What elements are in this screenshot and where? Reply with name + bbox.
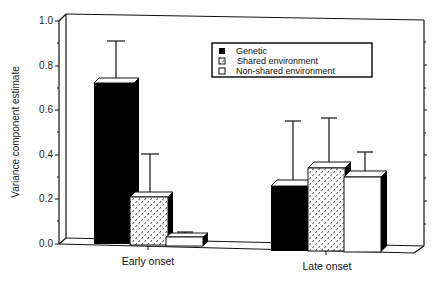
ytick-0.2: 0.2 <box>39 193 53 204</box>
legend-swatch-nonshared <box>219 68 225 74</box>
y-tick-labels: 1.0 0.8 0.6 0.4 0.2 0.0 <box>39 15 53 249</box>
ytick-0.0: 0.0 <box>39 238 53 249</box>
bar-chart: Variance component estimate <box>0 0 439 281</box>
legend-label-shared: Shared environment <box>237 56 319 66</box>
legend: Genetic Shared environment Non-shared en… <box>212 43 372 77</box>
legend-label-genetic: Genetic <box>236 46 268 56</box>
x-category-early-onset: Early onset <box>122 255 175 267</box>
ytick-0.4: 0.4 <box>39 149 53 160</box>
ytick-0.6: 0.6 <box>39 104 53 115</box>
legend-swatch-shared <box>219 58 225 64</box>
y-axis-label: Variance component estimate <box>10 66 21 198</box>
ytick-0.8: 0.8 <box>39 60 53 71</box>
ytick-1.0: 1.0 <box>39 15 53 26</box>
bar-early-nonshared <box>166 232 208 246</box>
legend-swatch-genetic <box>219 48 225 54</box>
legend-label-nonshared: Non-shared environment <box>236 66 336 76</box>
x-category-late-onset: Late onset <box>302 260 351 272</box>
